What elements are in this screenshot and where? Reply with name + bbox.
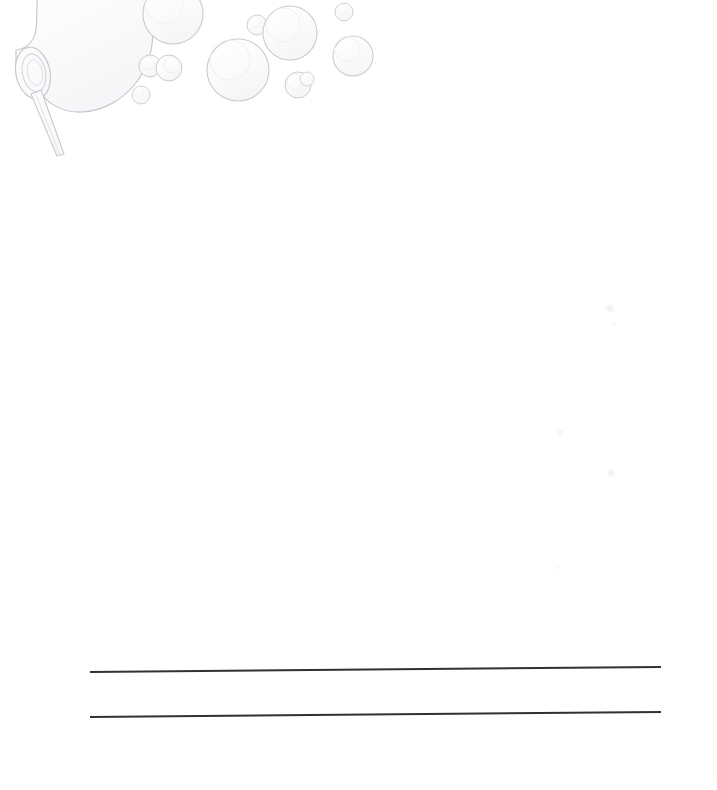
writing-lines [0,0,717,790]
writing-line-2 [90,712,661,717]
stationery-page [0,0,717,790]
writing-line-1 [90,667,661,672]
